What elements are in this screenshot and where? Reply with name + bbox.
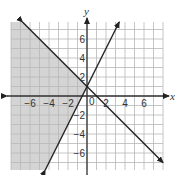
y-tick-label: −4 bbox=[74, 129, 86, 140]
y-tick-label: 4 bbox=[79, 53, 85, 64]
coordinate-plane: −6−4−2246642−2−4−60xy bbox=[0, 0, 176, 175]
y-tick-label: −6 bbox=[74, 148, 86, 159]
y-tick-label: 6 bbox=[79, 34, 85, 45]
x-tick-label: 2 bbox=[103, 98, 109, 109]
y-tick-label: −2 bbox=[74, 110, 86, 121]
x-axis-label: x bbox=[169, 90, 175, 102]
x-tick-label: 4 bbox=[122, 98, 128, 109]
x-tick-label: −2 bbox=[62, 98, 74, 109]
origin-label: 0 bbox=[89, 96, 95, 107]
x-tick-label: −4 bbox=[43, 98, 55, 109]
y-axis-label: y bbox=[83, 5, 89, 17]
y-tick-label: 2 bbox=[79, 72, 85, 83]
x-tick-label: 6 bbox=[141, 98, 147, 109]
x-tick-label: −6 bbox=[24, 98, 36, 109]
